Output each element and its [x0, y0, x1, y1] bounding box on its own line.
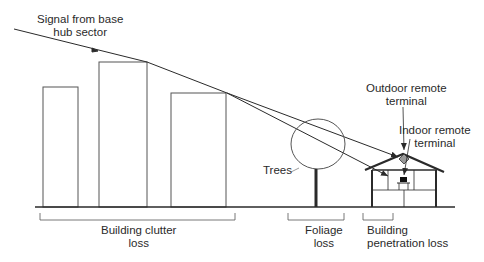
building-clutter-bracket	[40, 213, 235, 220]
building-2	[99, 62, 147, 207]
outdoor-terminal-label: Outdoor remote terminal	[366, 82, 447, 108]
buildings	[43, 62, 226, 207]
building-clutter-loss-label: Building clutter loss	[101, 224, 176, 250]
loss-brackets	[40, 213, 393, 220]
building-1	[43, 87, 78, 207]
building-3	[171, 93, 226, 207]
tree-icon	[291, 119, 345, 207]
indoor-terminal-icon	[400, 177, 407, 182]
trees-pointer	[291, 168, 299, 172]
signal-label: Signal from base hub sector	[37, 13, 123, 39]
trees-label: Trees	[263, 164, 292, 177]
foliage-bracket	[288, 213, 344, 220]
signal-path	[14, 29, 398, 176]
indoor-terminal-label: Indoor remote terminal	[399, 124, 471, 150]
building-penetration-bracket	[363, 213, 393, 220]
building-penetration-loss-label: Building penetration loss	[367, 224, 448, 250]
foliage-loss-label: Foliage loss	[305, 224, 343, 250]
